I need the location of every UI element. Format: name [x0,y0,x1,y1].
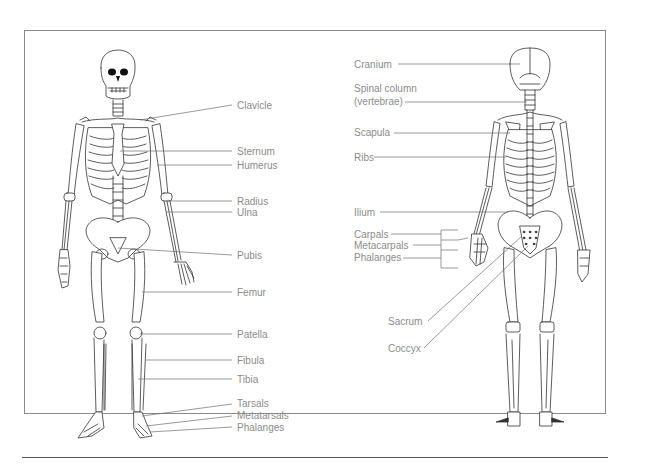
label-phalanges-hand: Phalanges [354,252,401,263]
label-sternum: Sternum [237,146,275,157]
label-phalanges-foot: Phalanges [237,422,284,433]
skeleton-illustration [0,0,646,472]
label-ilium: Ilium [354,207,375,218]
label-carpals: Carpals [354,229,388,240]
label-vertebrae: (vertebrae) [354,96,403,107]
label-coccyx: Coccyx [388,343,421,354]
label-tibia: Tibia [237,374,258,385]
leader-lines [118,64,528,432]
label-clavicle: Clavicle [237,100,272,111]
label-ulna: Ulna [237,207,258,218]
posterior-skeleton [470,48,590,426]
label-metatarsals: Metatarsals [237,410,289,421]
label-ribs: Ribs [354,152,374,163]
label-spinal-column: Spinal column [354,83,417,94]
label-fibula: Fibula [237,355,264,366]
label-scapula: Scapula [354,127,390,138]
label-sacrum: Sacrum [388,316,422,327]
label-radius: Radius [237,196,268,207]
label-patella: Patella [237,329,268,340]
label-tarsals: Tarsals [237,398,269,409]
anterior-skeleton [58,50,194,438]
label-femur: Femur [237,287,266,298]
label-cranium: Cranium [354,59,392,70]
label-metacarpals: Metacarpals [354,240,408,251]
label-pubis: Pubis [237,250,262,261]
label-humerus: Humerus [237,160,278,171]
